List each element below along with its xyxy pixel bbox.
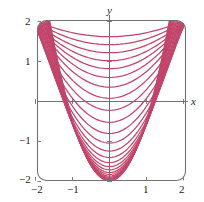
y-tick-label-pos1: 1 <box>25 56 31 67</box>
x-axis-label: x <box>191 96 196 107</box>
x-tick-label-neg2: −2 <box>31 184 43 195</box>
x-tick-label-neg1: −1 <box>67 184 79 195</box>
x-tick-label-pos1: 1 <box>143 184 149 195</box>
y-tick-label-pos2: 2 <box>25 16 31 27</box>
contour-plot-figure: y x −2 −1 1 2 2 1 −1 −2 <box>0 0 204 202</box>
y-axis-label: y <box>107 5 112 16</box>
y-tick-label-neg1: −1 <box>19 135 31 146</box>
x-tick-label-pos2: 2 <box>179 184 185 195</box>
y-tick-label-neg2: −2 <box>19 174 31 185</box>
plot-canvas <box>0 0 204 202</box>
